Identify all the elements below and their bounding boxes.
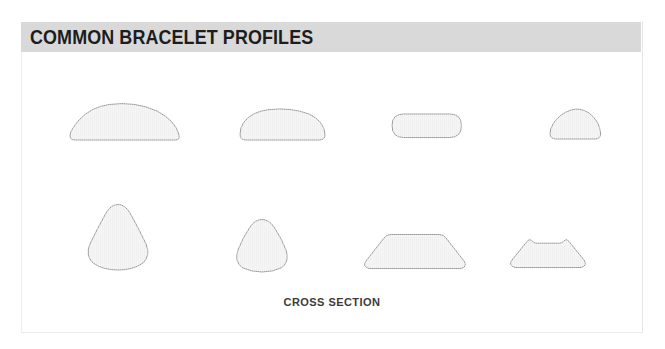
figure-caption: CROSS SECTION bbox=[21, 296, 643, 308]
small-rounded-triangle-icon bbox=[234, 218, 290, 273]
wide-low-dome-icon bbox=[69, 102, 181, 142]
concave-top-trapezoid-icon bbox=[508, 238, 588, 269]
profile-shape-flat-pill bbox=[391, 113, 463, 140]
profile-shape-large-rounded-triangle bbox=[84, 203, 152, 271]
flat-pill-icon bbox=[391, 113, 463, 140]
rounded-half-oval-icon bbox=[239, 108, 327, 142]
small-dome-icon bbox=[549, 108, 603, 141]
figure-body: CROSS SECTION bbox=[21, 52, 643, 333]
profile-shape-rounded-trapezoid bbox=[361, 233, 469, 271]
profile-shape-small-rounded-triangle bbox=[234, 218, 290, 273]
page-root: { "figure": { "title": "COMMON BRACELET … bbox=[0, 0, 665, 349]
large-rounded-triangle-icon bbox=[84, 203, 152, 271]
profile-shape-wide-low-dome bbox=[69, 102, 181, 142]
figure-title-bar: COMMON BRACELET PROFILES bbox=[21, 22, 641, 52]
profile-shape-concave-top-trapezoid bbox=[508, 238, 588, 269]
rounded-trapezoid-icon bbox=[361, 233, 469, 271]
profile-shape-small-dome bbox=[549, 108, 603, 141]
figure-title: COMMON BRACELET PROFILES bbox=[30, 26, 313, 49]
profile-shape-rounded-half-oval bbox=[239, 108, 327, 142]
scan-texture-overlay bbox=[21, 52, 643, 333]
